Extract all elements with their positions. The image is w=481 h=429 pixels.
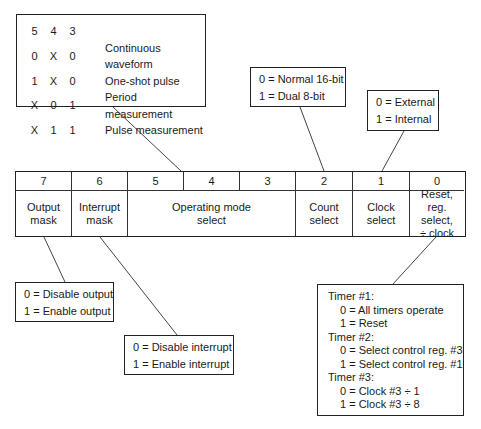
timer-2-heading: Timer #2:	[328, 331, 463, 345]
output-mask-option-0: 0 = Disable output	[24, 286, 113, 303]
timer-1-option-0: 0 = All timers operate	[328, 304, 463, 318]
output-mask-field: Outputmask	[16, 191, 72, 236]
timer-3-option-0: 0 = Clock #3 ÷ 1	[328, 385, 463, 399]
interrupt-mask-box: 0 = Disable interrupt 1 = Enable interru…	[124, 335, 234, 375]
mode-table-header: 5 4 3	[25, 23, 205, 40]
output-mask-box: 0 = Disable output 1 = Enable output	[15, 282, 114, 322]
operating-mode-select-field: Operating modeselect	[128, 191, 296, 236]
interrupt-mask-field: Interruptmask	[72, 191, 128, 236]
timer-2-option-0: 0 = Select control reg. #3	[328, 344, 463, 358]
clock-select-option-1: 1 = Internal	[376, 111, 438, 128]
count-select-option-1: 1 = Dual 8-bit	[259, 88, 345, 105]
timer-3-heading: Timer #3:	[328, 371, 463, 385]
mode-table-row: 1 X 0 One-shot pulse	[25, 73, 205, 90]
connector-output	[44, 237, 65, 282]
operating-mode-table: 5 4 3 0 X 0 Continuous waveform 1 X 0 On…	[25, 23, 205, 139]
count-select-option-0: 0 = Normal 16-bit	[259, 71, 345, 88]
connector-clock	[382, 131, 404, 171]
clock-select-option-0: 0 = External	[376, 94, 438, 111]
timer-1-heading: Timer #1:	[328, 290, 463, 304]
bit-3-header: 3	[240, 172, 296, 191]
bit-6-header: 6	[72, 172, 128, 191]
bit-7-header: 7	[16, 172, 72, 191]
count-select-box: 0 = Normal 16-bit 1 = Dual 8-bit	[250, 67, 346, 107]
bit-4-header: 4	[184, 172, 240, 191]
interrupt-mask-option-1: 1 = Enable interrupt	[133, 356, 233, 373]
interrupt-mask-option-0: 0 = Disable interrupt	[133, 339, 233, 356]
clock-select-box: 0 = External 1 = Internal	[367, 90, 439, 131]
output-mask-option-1: 1 = Enable output	[24, 303, 113, 320]
mode-table-row: X 1 1 Pulse measurement	[25, 122, 205, 139]
mode-table-row: 0 X 0 Continuous waveform	[25, 40, 205, 73]
reset-select-box: Timer #1: 0 = All timers operate 1 = Res…	[317, 284, 464, 416]
connector-count	[300, 107, 324, 171]
timer-2-option-1: 1 = Select control reg. #1	[328, 358, 463, 372]
connector-reset	[393, 237, 436, 284]
bit-2-header: 2	[296, 172, 353, 191]
mode-table-row: X 0 1 Period measurement	[25, 89, 205, 122]
reset-reg-select-clock-field: Reset,reg. select,÷ clock	[410, 191, 464, 236]
clock-select-field: Clockselect	[353, 191, 410, 236]
bit-1-header: 1	[353, 172, 410, 191]
control-register: 7 6 5 4 3 2 1 0 Outputmask Interruptmask…	[15, 171, 466, 237]
timer-1-option-1: 1 = Reset	[328, 317, 463, 331]
operating-mode-box: 5 4 3 0 X 0 Continuous waveform 1 X 0 On…	[16, 14, 206, 107]
timer-3-option-1: 1 = Clock #3 ÷ 8	[328, 398, 463, 412]
count-select-field: Countselect	[296, 191, 353, 236]
bit-5-header: 5	[128, 172, 184, 191]
